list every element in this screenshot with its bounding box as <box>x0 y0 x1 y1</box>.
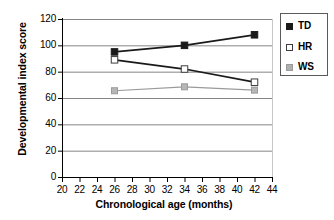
legend-item-hr[interactable]: HR <box>286 42 312 52</box>
legend-item-td[interactable]: TD <box>286 21 311 31</box>
datapoint-ws-42[interactable] <box>252 87 258 93</box>
datapoint-hr-42[interactable] <box>251 79 258 86</box>
gray-square-swatch <box>286 64 293 71</box>
y-tick-label-20: 20 <box>26 145 56 156</box>
y-tick-label-0: 0 <box>26 171 56 182</box>
y-tick-label-80: 80 <box>26 66 56 77</box>
developmental-index-chart: Developmental index score Chronological … <box>0 0 334 220</box>
legend-label-ws: WS <box>298 62 314 72</box>
x-axis-title: Chronological age (months) <box>52 198 276 210</box>
legend-label-td: TD <box>298 21 311 31</box>
open-square-swatch <box>286 44 293 51</box>
y-tick-label-100: 100 <box>26 39 56 50</box>
datapoint-td-42[interactable] <box>251 32 258 39</box>
datapoint-hr-26[interactable] <box>111 57 118 64</box>
datapoint-ws-34[interactable] <box>182 84 188 90</box>
filled-square-swatch <box>286 23 293 30</box>
datapoint-hr-34[interactable] <box>181 66 188 73</box>
datapoint-td-34[interactable] <box>181 42 188 49</box>
legend-item-ws[interactable]: WS <box>286 62 314 72</box>
y-tick-label-60: 60 <box>26 92 56 103</box>
legend: TD HR WS <box>280 13 328 76</box>
y-tick-label-40: 40 <box>26 118 56 129</box>
x-tick-label-44: 44 <box>260 184 284 195</box>
datapoint-ws-26[interactable] <box>112 88 118 94</box>
datapoint-td-26[interactable] <box>111 49 118 56</box>
y-tick-label-120: 120 <box>26 13 56 24</box>
legend-label-hr: HR <box>298 42 312 52</box>
